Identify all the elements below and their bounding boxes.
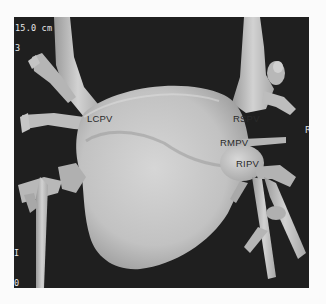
label-rmpv: RMPV (220, 137, 248, 148)
ct-rendering-viewport: 15.0 cm 3 I 0 0 .40s/HE 55.0mm/rot 1.375… (14, 17, 309, 288)
left-superior-vessel (54, 17, 102, 117)
scale-text: 15.0 cm (15, 23, 52, 33)
param-line: I (14, 248, 110, 258)
acquisition-parameters: I 0 0 .40s/HE 55.0mm/rot 1.375:1/1.2sp 0… (14, 228, 110, 288)
label-lcpv: LCPV (87, 113, 113, 124)
rmpv-vessel (242, 137, 286, 147)
label-ripv: RIPV (236, 158, 259, 169)
orientation-marker: R (305, 125, 309, 135)
param-line: 0 (14, 278, 110, 288)
overlay-line-2: 3 (15, 43, 20, 53)
label-rspv: RSPV (233, 113, 260, 124)
